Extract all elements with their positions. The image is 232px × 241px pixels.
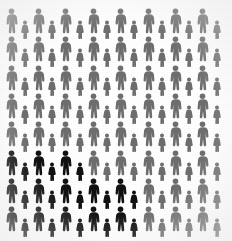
male-person-icon <box>142 93 155 119</box>
female-person-icon <box>102 217 112 239</box>
male-person-icon <box>32 178 45 204</box>
male-person-icon <box>59 206 72 232</box>
male-person-icon <box>32 150 45 176</box>
person-figure-grid <box>0 0 232 241</box>
female-person-icon <box>20 19 30 41</box>
female-person-icon <box>129 19 139 41</box>
female-person-icon <box>47 132 57 154</box>
male-person-icon <box>142 121 155 147</box>
female-person-icon <box>47 104 57 126</box>
male-person-icon <box>59 150 72 176</box>
female-person-icon <box>184 161 194 183</box>
female-person-icon <box>75 104 85 126</box>
female-person-icon <box>184 19 194 41</box>
male-person-icon <box>196 206 209 232</box>
male-person-icon <box>87 150 100 176</box>
male-person-icon <box>142 8 155 34</box>
male-person-icon <box>5 206 18 232</box>
male-person-icon <box>59 8 72 34</box>
female-person-icon <box>212 161 222 183</box>
male-person-icon <box>5 121 18 147</box>
female-person-icon <box>75 132 85 154</box>
male-person-icon <box>5 93 18 119</box>
female-person-icon <box>102 104 112 126</box>
female-person-icon <box>212 47 222 69</box>
male-person-icon <box>169 150 182 176</box>
male-person-icon <box>114 65 127 91</box>
male-person-icon <box>87 65 100 91</box>
female-person-icon <box>129 104 139 126</box>
female-person-icon <box>75 76 85 98</box>
male-person-icon <box>114 178 127 204</box>
male-person-icon <box>169 206 182 232</box>
male-person-icon <box>169 36 182 62</box>
male-person-icon <box>5 65 18 91</box>
female-person-icon <box>157 104 167 126</box>
male-person-icon <box>87 8 100 34</box>
female-person-icon <box>212 217 222 239</box>
female-person-icon <box>212 132 222 154</box>
male-person-icon <box>114 93 127 119</box>
female-person-icon <box>20 189 30 211</box>
female-person-icon <box>129 217 139 239</box>
male-person-icon <box>59 178 72 204</box>
male-person-icon <box>196 150 209 176</box>
female-person-icon <box>75 161 85 183</box>
female-person-icon <box>47 161 57 183</box>
female-person-icon <box>47 19 57 41</box>
male-person-icon <box>142 150 155 176</box>
male-person-icon <box>59 36 72 62</box>
male-person-icon <box>196 65 209 91</box>
female-person-icon <box>47 76 57 98</box>
male-person-icon <box>87 93 100 119</box>
male-person-icon <box>5 8 18 34</box>
male-person-icon <box>169 121 182 147</box>
male-person-icon <box>32 65 45 91</box>
female-person-icon <box>184 76 194 98</box>
female-person-icon <box>157 19 167 41</box>
male-person-icon <box>114 8 127 34</box>
female-person-icon <box>129 47 139 69</box>
female-person-icon <box>129 189 139 211</box>
male-person-icon <box>114 150 127 176</box>
male-person-icon <box>142 65 155 91</box>
female-person-icon <box>129 76 139 98</box>
male-person-icon <box>5 150 18 176</box>
male-person-icon <box>5 178 18 204</box>
female-person-icon <box>102 19 112 41</box>
female-person-icon <box>102 132 112 154</box>
female-person-icon <box>102 189 112 211</box>
male-person-icon <box>142 178 155 204</box>
male-person-icon <box>169 178 182 204</box>
male-person-icon <box>196 8 209 34</box>
female-person-icon <box>212 19 222 41</box>
male-person-icon <box>32 93 45 119</box>
male-person-icon <box>32 121 45 147</box>
male-person-icon <box>114 36 127 62</box>
male-person-icon <box>59 121 72 147</box>
male-person-icon <box>114 121 127 147</box>
female-person-icon <box>102 76 112 98</box>
male-person-icon <box>87 36 100 62</box>
male-person-icon <box>196 93 209 119</box>
female-person-icon <box>212 104 222 126</box>
male-person-icon <box>32 36 45 62</box>
female-person-icon <box>184 47 194 69</box>
female-person-icon <box>47 217 57 239</box>
female-person-icon <box>157 161 167 183</box>
male-person-icon <box>196 36 209 62</box>
female-person-icon <box>129 132 139 154</box>
female-person-icon <box>20 132 30 154</box>
male-person-icon <box>87 178 100 204</box>
male-person-icon <box>59 93 72 119</box>
female-person-icon <box>157 76 167 98</box>
male-person-icon <box>114 206 127 232</box>
female-person-icon <box>212 76 222 98</box>
female-person-icon <box>20 217 30 239</box>
male-person-icon <box>169 8 182 34</box>
female-person-icon <box>129 161 139 183</box>
female-person-icon <box>20 104 30 126</box>
female-person-icon <box>20 47 30 69</box>
male-person-icon <box>142 206 155 232</box>
female-person-icon <box>184 217 194 239</box>
